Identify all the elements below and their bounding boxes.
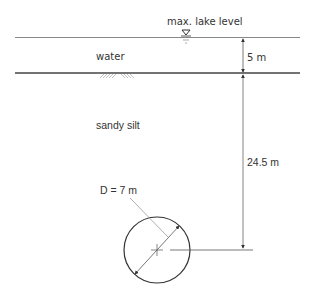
tunnel-cross-section-diagram: max. lake level water 5 m 24.5 m sandy s…	[0, 0, 321, 297]
water-depth-label: 5 m	[247, 52, 266, 63]
cover-depth-label: 24.5 m	[247, 156, 279, 168]
water-level-icon	[181, 30, 191, 43]
max-lake-level-label: max. lake level	[167, 16, 243, 27]
ground-hatch-icon	[100, 74, 134, 78]
sandy-silt-label: sandy silt	[96, 119, 140, 131]
water-label: water	[96, 51, 125, 62]
diameter-label: D = 7 m	[100, 184, 137, 196]
